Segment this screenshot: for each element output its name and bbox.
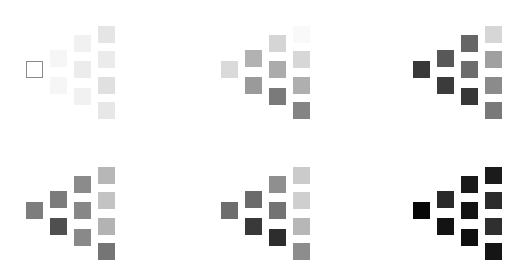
panel-4-layer-4-unit: [98, 243, 115, 260]
panel-6-layer-4-unit: [485, 218, 502, 235]
panel-3-layer-2-unit: [437, 50, 454, 67]
panel-4-layer-3-unit: [74, 176, 91, 193]
panel-1-layer-1-unit: [26, 61, 43, 78]
panel-1-layer-2-unit: [50, 50, 67, 67]
panel-4-layer-4-unit: [98, 192, 115, 209]
panel-1-layer-4-unit: [98, 26, 115, 43]
panel-2-layer-4-unit: [293, 77, 310, 94]
panel-6-layer-4-unit: [485, 243, 502, 260]
panel-1-layer-4-unit: [98, 51, 115, 68]
panel-3-layer-4-unit: [485, 77, 502, 94]
panel-3-layer-3-unit: [461, 35, 478, 52]
panel-5-layer-4-unit: [293, 218, 310, 235]
panel-6-layer-2-unit: [437, 218, 454, 235]
panel-5-layer-2-unit: [245, 218, 262, 235]
panel-1-layer-2-unit: [50, 77, 67, 94]
panel-2-layer-3-unit: [269, 88, 286, 105]
panel-6-layer-3-unit: [461, 229, 478, 246]
panel-4-layer-3-unit: [74, 229, 91, 246]
panel-6-layer-4-unit: [485, 192, 502, 209]
panel-5-layer-3-unit: [269, 229, 286, 246]
panel-3-layer-3-unit: [461, 88, 478, 105]
panel-5-layer-3-unit: [269, 202, 286, 219]
panel-6-layer-3-unit: [461, 202, 478, 219]
panel-1-layer-3-unit: [74, 61, 91, 78]
panel-4-layer-4-unit: [98, 167, 115, 184]
panel-1-layer-4-unit: [98, 102, 115, 119]
panel-3-layer-2-unit: [437, 77, 454, 94]
panel-1-layer-4-unit: [98, 77, 115, 94]
panel-2-layer-4-unit: [293, 26, 310, 43]
panel-5-layer-3-unit: [269, 176, 286, 193]
panel-3-layer-4-unit: [485, 102, 502, 119]
panel-3-layer-3-unit: [461, 61, 478, 78]
panel-4-layer-3-unit: [74, 202, 91, 219]
panel-2-layer-2-unit: [245, 77, 262, 94]
panel-5-layer-4-unit: [293, 243, 310, 260]
panel-2-layer-1-unit: [221, 61, 238, 78]
panel-1-layer-3-unit: [74, 88, 91, 105]
panel-4-layer-1-unit: [26, 202, 43, 219]
panel-2-layer-3-unit: [269, 61, 286, 78]
panel-6-layer-1-unit: [413, 202, 430, 219]
panel-4-layer-2-unit: [50, 218, 67, 235]
panel-6-layer-3-unit: [461, 176, 478, 193]
panel-2-layer-2-unit: [245, 50, 262, 67]
panel-6-layer-4-unit: [485, 167, 502, 184]
panel-4-layer-2-unit: [50, 191, 67, 208]
panel-3-layer-4-unit: [485, 51, 502, 68]
panel-2-layer-3-unit: [269, 35, 286, 52]
panel-3-layer-1-unit: [413, 61, 430, 78]
panel-4-layer-4-unit: [98, 218, 115, 235]
panel-2-layer-4-unit: [293, 102, 310, 119]
panel-5-layer-2-unit: [245, 191, 262, 208]
panel-1-layer-3-unit: [74, 35, 91, 52]
panel-6-layer-2-unit: [437, 191, 454, 208]
panel-5-layer-4-unit: [293, 192, 310, 209]
panel-5-layer-1-unit: [221, 202, 238, 219]
panel-5-layer-4-unit: [293, 167, 310, 184]
panel-3-layer-4-unit: [485, 26, 502, 43]
panel-2-layer-4-unit: [293, 51, 310, 68]
